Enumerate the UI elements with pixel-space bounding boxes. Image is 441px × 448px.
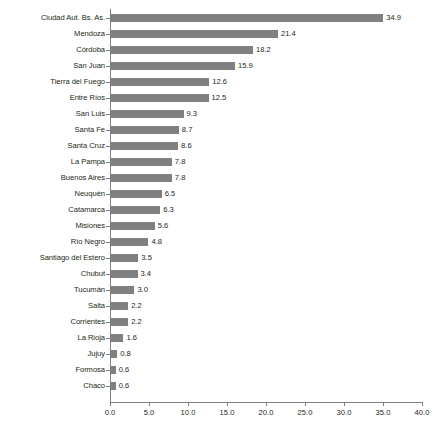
- bar-row: Chaco0.6: [0, 378, 441, 394]
- bar-row: Mendoza21.4: [0, 26, 441, 42]
- bar: [111, 254, 138, 262]
- plot-area: Ciudad Aut. Bs. As.34.9Mendoza21.4Córdob…: [0, 0, 441, 448]
- category-label: Chaco: [0, 378, 105, 394]
- y-axis-tick: [106, 34, 110, 35]
- bar-value-label: 8.7: [179, 122, 193, 138]
- y-axis-tick: [106, 274, 110, 275]
- x-axis-tick-label: 35.0: [363, 408, 403, 417]
- category-label: Catamarca: [0, 202, 105, 218]
- bar: [111, 46, 253, 54]
- bar: [111, 126, 179, 134]
- y-axis-tick: [106, 210, 110, 211]
- bar: [111, 334, 123, 342]
- bar: [111, 30, 278, 38]
- bar-row: Salta2.2: [0, 298, 441, 314]
- x-axis-tick-label: 40.0: [402, 408, 441, 417]
- x-axis-tick: [305, 402, 306, 406]
- x-axis-tick: [266, 402, 267, 406]
- bar-row: Formosa0.6: [0, 362, 441, 378]
- bar: [111, 270, 138, 278]
- category-label: Corrientes: [0, 314, 105, 330]
- category-label: La Pampa: [0, 154, 105, 170]
- category-label: Río Negro: [0, 234, 105, 250]
- bar-row: San Juan15.9: [0, 58, 441, 74]
- y-axis-tick: [106, 258, 110, 259]
- bar-value-label: 0.6: [116, 362, 130, 378]
- x-axis-tick-label: 20.0: [246, 408, 286, 417]
- bar-chart: Ciudad Aut. Bs. As.34.9Mendoza21.4Córdob…: [0, 0, 441, 448]
- category-label: Misiones: [0, 218, 105, 234]
- bar: [111, 190, 162, 198]
- y-axis-tick: [106, 242, 110, 243]
- category-label: Neuquén: [0, 186, 105, 202]
- y-axis-tick: [106, 290, 110, 291]
- bar: [111, 302, 128, 310]
- y-axis-tick: [106, 114, 110, 115]
- bar-value-label: 0.8: [117, 346, 131, 362]
- y-axis-tick: [106, 338, 110, 339]
- category-label: Santiago del Estero: [0, 250, 105, 266]
- bar: [111, 238, 148, 246]
- category-label: Mendoza: [0, 26, 105, 42]
- bar-value-label: 9.3: [184, 106, 198, 122]
- y-axis-tick: [106, 162, 110, 163]
- bar-row: Jujuy0.8: [0, 346, 441, 362]
- y-axis-tick: [106, 354, 110, 355]
- bar: [111, 110, 184, 118]
- category-label: Córdoba: [0, 42, 105, 58]
- bar: [111, 62, 235, 70]
- category-label: San Luis: [0, 106, 105, 122]
- category-label: Jujuy: [0, 346, 105, 362]
- y-axis-tick: [106, 82, 110, 83]
- x-axis-tick: [110, 402, 111, 406]
- bar-row: Santa Fe8.7: [0, 122, 441, 138]
- y-axis-tick: [106, 98, 110, 99]
- bar: [111, 78, 209, 86]
- bar-row: Santiago del Estero3.5: [0, 250, 441, 266]
- bar-value-label: 6.5: [162, 186, 176, 202]
- bar: [111, 318, 128, 326]
- bar: [111, 206, 160, 214]
- y-axis-tick: [106, 146, 110, 147]
- category-label: Santa Cruz: [0, 138, 105, 154]
- bar-value-label: 7.8: [172, 154, 186, 170]
- category-label: Tierra del Fuego: [0, 74, 105, 90]
- bar: [111, 286, 134, 294]
- bar-row: Chubut3.4: [0, 266, 441, 282]
- bar-row: San Luis9.3: [0, 106, 441, 122]
- bar-row: Buenos Aires7.8: [0, 170, 441, 186]
- bar-row: Tucumán3.0: [0, 282, 441, 298]
- bar: [111, 94, 209, 102]
- category-label: Buenos Aires: [0, 170, 105, 186]
- x-axis-tick: [344, 402, 345, 406]
- bar-value-label: 12.6: [209, 74, 227, 90]
- category-label: Salta: [0, 298, 105, 314]
- y-axis-tick: [106, 194, 110, 195]
- category-label: La Rioja: [0, 330, 105, 346]
- bar: [111, 14, 383, 22]
- y-axis-tick: [106, 130, 110, 131]
- x-axis-tick-label: 15.0: [207, 408, 247, 417]
- bar-value-label: 4.8: [148, 234, 162, 250]
- bar-value-label: 34.9: [383, 10, 401, 26]
- category-label: Entre Ríos: [0, 90, 105, 106]
- bar-row: La Pampa7.8: [0, 154, 441, 170]
- x-axis-tick-label: 30.0: [324, 408, 364, 417]
- bar-value-label: 3.0: [134, 282, 148, 298]
- x-axis-tick-label: 10.0: [168, 408, 208, 417]
- bar-value-label: 21.4: [278, 26, 296, 42]
- y-axis-tick: [106, 226, 110, 227]
- y-axis-tick: [106, 18, 110, 19]
- x-axis-tick: [383, 402, 384, 406]
- bar-value-label: 2.2: [128, 298, 142, 314]
- category-label: Formosa: [0, 362, 105, 378]
- y-axis-tick: [106, 306, 110, 307]
- bar: [111, 158, 172, 166]
- x-axis-tick-label: 0.0: [90, 408, 130, 417]
- bar-value-label: 3.5: [138, 250, 152, 266]
- x-axis-tick-label: 5.0: [129, 408, 169, 417]
- bar-value-label: 18.2: [253, 42, 271, 58]
- bar-value-label: 12.5: [209, 90, 227, 106]
- bar-row: La Rioja1.6: [0, 330, 441, 346]
- bar-value-label: 5.6: [155, 218, 169, 234]
